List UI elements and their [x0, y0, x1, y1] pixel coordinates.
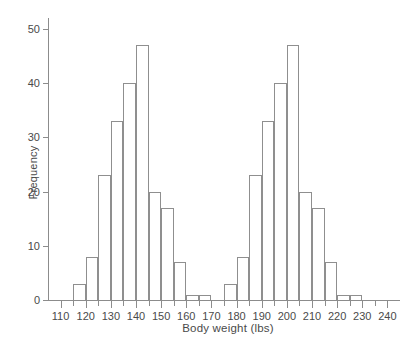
histogram-bar: [237, 257, 250, 300]
y-tick-label: 30: [28, 131, 40, 143]
y-tick-label: 50: [28, 23, 40, 35]
x-tick-major: [161, 301, 162, 308]
histogram-bar: [299, 192, 312, 300]
histogram-bar: [86, 257, 99, 300]
x-tick-major: [61, 301, 62, 308]
y-tick-mark: [43, 192, 48, 193]
histogram-bar: [287, 45, 300, 300]
histogram-bar: [249, 175, 262, 300]
x-tick-major: [237, 301, 238, 308]
y-tick-label: 20: [28, 186, 40, 198]
histogram-bar: [149, 192, 162, 300]
x-tick-minor: [174, 301, 175, 306]
x-axis-title: Body weight (lbs): [48, 322, 408, 334]
histogram-bar: [325, 262, 338, 300]
histogram-bar: [123, 83, 136, 300]
y-tick-mark: [43, 246, 48, 247]
x-tick-major: [136, 301, 137, 308]
histogram-bar: [199, 295, 212, 300]
y-tick-mark: [43, 83, 48, 84]
x-tick-major: [362, 301, 363, 308]
x-tick-label: 130: [102, 310, 120, 322]
x-tick-label: 220: [328, 310, 346, 322]
x-tick-minor: [224, 301, 225, 306]
y-tick-mark: [43, 137, 48, 138]
x-tick-major: [111, 301, 112, 308]
y-tick-label: 0: [34, 294, 40, 306]
histogram-bar: [224, 284, 237, 300]
y-tick-mark: [43, 29, 48, 30]
x-tick-minor: [73, 301, 74, 306]
x-tick-minor: [375, 301, 376, 306]
x-tick-major: [211, 301, 212, 308]
x-tick-label: 180: [227, 310, 245, 322]
histogram-bar: [161, 208, 174, 300]
y-axis-line: [48, 18, 49, 301]
histogram-bar: [98, 175, 111, 300]
x-tick-label: 170: [202, 310, 220, 322]
histogram-bar: [136, 45, 149, 300]
x-tick-label: 140: [127, 310, 145, 322]
x-tick-label: 240: [378, 310, 396, 322]
x-tick-label: 160: [177, 310, 195, 322]
x-tick-minor: [98, 301, 99, 306]
x-tick-label: 190: [253, 310, 271, 322]
x-tick-major: [337, 301, 338, 308]
x-tick-minor: [123, 301, 124, 306]
x-tick-minor: [325, 301, 326, 306]
x-tick-minor: [199, 301, 200, 306]
x-tick-major: [287, 301, 288, 308]
histogram-bar: [337, 295, 350, 300]
plot-area: 01020304050 1101201301401501601701801902…: [48, 18, 400, 300]
x-tick-major: [86, 301, 87, 308]
x-tick-label: 120: [77, 310, 95, 322]
x-tick-minor: [350, 301, 351, 306]
histogram-bar: [186, 295, 199, 300]
histogram-bar: [111, 121, 124, 300]
x-tick-label: 200: [278, 310, 296, 322]
x-tick-minor: [249, 301, 250, 306]
x-tick-minor: [274, 301, 275, 306]
histogram-bar: [73, 284, 86, 300]
histogram-bar: [312, 208, 325, 300]
x-tick-minor: [299, 301, 300, 306]
x-tick-label: 150: [152, 310, 170, 322]
y-tick-mark: [43, 300, 48, 301]
histogram-bar: [274, 83, 287, 300]
x-axis-title-text: Body weight (lbs): [182, 322, 274, 334]
x-tick-minor: [149, 301, 150, 306]
histogram-figure: Frequency 01020304050 110120130140150160…: [0, 0, 415, 345]
x-tick-label: 110: [52, 310, 70, 322]
x-tick-label: 230: [353, 310, 371, 322]
x-tick-major: [262, 301, 263, 308]
y-tick-label: 10: [28, 240, 40, 252]
x-tick-label: 210: [303, 310, 321, 322]
histogram-bar: [262, 121, 275, 300]
histogram-bar: [350, 295, 363, 300]
x-tick-major: [312, 301, 313, 308]
y-tick-label: 40: [28, 77, 40, 89]
x-tick-major: [186, 301, 187, 308]
x-tick-major: [387, 301, 388, 308]
histogram-bar: [174, 262, 187, 300]
